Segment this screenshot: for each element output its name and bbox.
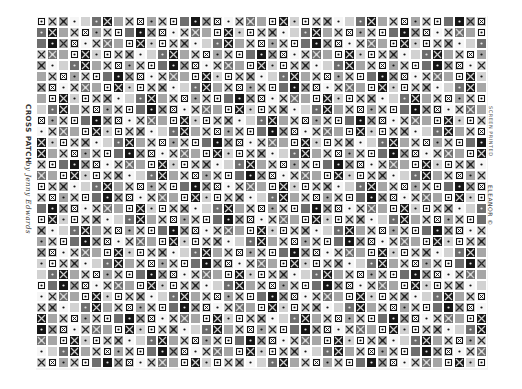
pattern-tile-cross	[388, 291, 399, 302]
pattern-tile-plain	[36, 93, 47, 104]
pattern-tile-plain	[355, 225, 366, 236]
pattern-tile-plain	[300, 203, 311, 214]
pattern-tile-cross-dot	[377, 280, 388, 291]
pattern-tile-boxed-cross	[289, 291, 300, 302]
pattern-tile-cross	[157, 335, 168, 346]
pattern-tile-boxed-dot	[146, 159, 157, 170]
pattern-tile-cross-dot	[135, 126, 146, 137]
pattern-tile-boxed-dot	[201, 214, 212, 225]
pattern-tile-cross	[410, 357, 421, 368]
pattern-tile-cross-dot	[476, 346, 487, 357]
pattern-tile-dot	[36, 346, 47, 357]
pattern-tile-dot	[113, 346, 124, 357]
pattern-tile-cross	[223, 137, 234, 148]
pattern-tile-plain	[333, 236, 344, 247]
pattern-tile-boxed-dot	[300, 181, 311, 192]
pattern-tile-boxed-dot	[465, 214, 476, 225]
pattern-tile-cross-dot	[366, 93, 377, 104]
pattern-tile-dot	[355, 137, 366, 148]
pattern-tile-plain	[344, 346, 355, 357]
pattern-tile-cross-dot	[333, 258, 344, 269]
pattern-tile-cross	[311, 324, 322, 335]
pattern-tile-cross	[388, 126, 399, 137]
pattern-tile-cross	[443, 137, 454, 148]
pattern-tile-dot	[58, 280, 69, 291]
pattern-tile-plain	[245, 115, 256, 126]
pattern-tile-plain	[91, 247, 102, 258]
pattern-tile-cross	[454, 159, 465, 170]
pattern-tile-dot	[399, 93, 410, 104]
pattern-tile-boxed-dot	[135, 346, 146, 357]
pattern-tile-dot	[388, 82, 399, 93]
pattern-tile-cross-dot	[322, 126, 333, 137]
pattern-tile-plain	[388, 280, 399, 291]
pattern-tile-dot	[355, 280, 366, 291]
pattern-tile-cross	[179, 27, 190, 38]
pattern-tile-plain	[146, 346, 157, 357]
pattern-tile-cross	[377, 82, 388, 93]
pattern-tile-cross	[124, 181, 135, 192]
pattern-tile-dot	[289, 313, 300, 324]
pattern-tile-cross	[333, 247, 344, 258]
pattern-tile-boxed-dot	[366, 247, 377, 258]
pattern-tile-dot	[410, 126, 421, 137]
pattern-tile-dot	[47, 60, 58, 71]
pattern-tile-cross	[113, 82, 124, 93]
pattern-tile-cross	[311, 16, 322, 27]
pattern-tile-cross	[179, 126, 190, 137]
pattern-tile-boxed-dot	[443, 357, 454, 368]
pattern-tile-dot	[388, 313, 399, 324]
pattern-tile-cross	[465, 291, 476, 302]
pattern-tile-cross	[234, 280, 245, 291]
pattern-tile-cross	[168, 258, 179, 269]
pattern-tile-cross	[190, 302, 201, 313]
pattern-tile-cross	[300, 313, 311, 324]
pattern-tile-dot	[432, 137, 443, 148]
pattern-tile-cross-dot	[58, 126, 69, 137]
pattern-tile-cross	[80, 159, 91, 170]
pattern-tile-plain	[212, 104, 223, 115]
pattern-tile-plain	[223, 346, 234, 357]
pattern-tile-boxed-dot	[399, 346, 410, 357]
pattern-tile-dot	[344, 203, 355, 214]
pattern-tile-plain	[58, 159, 69, 170]
pattern-tile-cross	[333, 192, 344, 203]
pattern-tile-dot	[366, 214, 377, 225]
pattern-tile-boxed-cross	[410, 148, 421, 159]
pattern-tile-boxed-dot	[421, 302, 432, 313]
pattern-tile-plain	[366, 137, 377, 148]
pattern-tile-cross	[102, 225, 113, 236]
pattern-tile-cross	[377, 302, 388, 313]
pattern-tile-dot	[36, 291, 47, 302]
pattern-tile-cross	[256, 280, 267, 291]
pattern-tile-boxed-dot	[399, 280, 410, 291]
pattern-tile-cross	[80, 324, 91, 335]
pattern-tile-boxed-dot	[190, 137, 201, 148]
pattern-tile-dot	[267, 225, 278, 236]
pattern-tile-boxed-cross	[432, 269, 443, 280]
pattern-tile-cross-dot	[256, 148, 267, 159]
pattern-tile-dot	[289, 247, 300, 258]
pattern-tile-cross	[168, 49, 179, 60]
pattern-tile-dot	[190, 247, 201, 258]
pattern-tile-boxed-dot	[146, 60, 157, 71]
pattern-tile-cross	[245, 148, 256, 159]
pattern-tile-dot	[289, 159, 300, 170]
pattern-tile-cross-dot	[36, 170, 47, 181]
pattern-tile-cross	[201, 71, 212, 82]
pattern-tile-cross	[245, 346, 256, 357]
pattern-tile-boxed-dot	[168, 115, 179, 126]
pattern-tile-cross	[47, 16, 58, 27]
pattern-tile-cross-dot	[201, 159, 212, 170]
pattern-tile-plain	[113, 181, 124, 192]
pattern-tile-dot	[322, 214, 333, 225]
pattern-tile-cross	[157, 71, 168, 82]
pattern-tile-cross	[333, 335, 344, 346]
pattern-tile-cross	[124, 236, 135, 247]
pattern-tile-cross	[322, 93, 333, 104]
pattern-tile-cross-dot	[322, 181, 333, 192]
pattern-tile-plain	[47, 170, 58, 181]
pattern-tile-cross	[333, 137, 344, 148]
pattern-tile-cross	[476, 324, 487, 335]
pattern-tile-boxed-dot	[388, 269, 399, 280]
